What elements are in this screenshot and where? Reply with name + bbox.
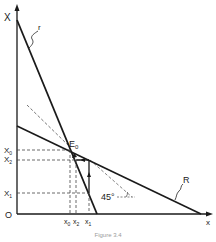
diagram-canvas: X O x r R E0 X0 X2 X1 x0 x2 x1 45° bbox=[0, 0, 216, 242]
x-tick-x0: x0 bbox=[64, 218, 71, 227]
y-tick-X1: X1 bbox=[4, 189, 12, 199]
r-label: r bbox=[38, 23, 41, 32]
x-tick-x1: x1 bbox=[85, 218, 92, 227]
x-axis-arrow-icon bbox=[206, 212, 213, 217]
figure-caption: Figure 3.4 bbox=[0, 232, 216, 238]
R-label-leader bbox=[175, 184, 183, 200]
y-tick-X2: X2 bbox=[4, 155, 12, 165]
x-axis-label: x bbox=[206, 218, 210, 227]
y-axis-arrow-icon bbox=[15, 4, 20, 11]
y-axis-label: X bbox=[4, 12, 11, 23]
x-tick-x2: x2 bbox=[73, 218, 80, 227]
r-label-leader bbox=[29, 31, 38, 48]
R-label: R bbox=[183, 175, 190, 185]
line-r bbox=[17, 20, 97, 214]
adjust-up-arrow-icon bbox=[87, 172, 91, 177]
origin-label: O bbox=[5, 210, 12, 220]
equilibrium-label: E0 bbox=[69, 139, 79, 150]
adjust-left-arrow-icon bbox=[80, 158, 85, 162]
angle-label: 45° bbox=[101, 192, 115, 202]
angle-arc bbox=[126, 192, 128, 197]
